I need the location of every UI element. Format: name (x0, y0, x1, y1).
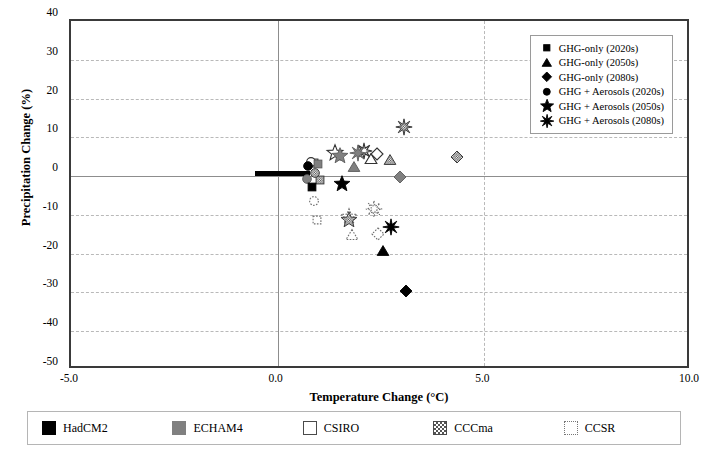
data-point (338, 208, 360, 230)
legend-item-label: GHG + Aerosols (2050s) (557, 101, 664, 112)
y-tick-label: 10 (2, 123, 58, 134)
legend-item-triangle: GHG-only (2050s) (537, 56, 664, 71)
legend-item-square: GHG-only (2020s) (537, 41, 664, 56)
legend-item-diamond: GHG-only (2080s) (537, 70, 664, 85)
x-tick-label: 5.0 (452, 372, 512, 384)
zero-axis-vertical (278, 21, 279, 366)
data-point (448, 148, 468, 168)
model-legend-item-hadcm2: HadCM2 (28, 421, 158, 436)
model-legend-item-echam4: ECHAM4 (158, 421, 288, 436)
swatch-solid-black-icon (42, 421, 56, 435)
model-legend-item-cccma: CCCma (419, 421, 549, 436)
y-tick-label: -30 (2, 278, 58, 289)
model-legend: HadCM2ECHAM4CSIROCCCmaCCSR (27, 411, 681, 445)
y-tick-label: -40 (2, 317, 58, 328)
gridline-horizontal (71, 292, 687, 293)
model-legend-label: ECHAM4 (193, 421, 242, 436)
model-legend-label: HadCM2 (63, 421, 108, 436)
swatch-dotted-outline-icon (564, 421, 578, 435)
legend-item-label: GHG-only (2050s) (557, 57, 639, 68)
data-point (396, 281, 416, 301)
model-legend-item-ccsr: CCSR (550, 421, 680, 436)
y-tick-label: 20 (2, 85, 58, 96)
model-legend-label: CSIRO (324, 421, 359, 436)
y-tick-label: 30 (2, 46, 58, 57)
series-legend: GHG-only (2020s)GHG-only (2050s)GHG-only… (530, 35, 673, 134)
zero-axis-horizontal (71, 176, 687, 177)
data-point (390, 168, 410, 188)
x-axis-title: Temperature Change (°C) (69, 390, 689, 405)
x-axis-tick-labels: -5.00.05.010.0 (69, 370, 689, 388)
data-point (373, 241, 393, 261)
gridline-vertical (484, 21, 485, 366)
y-axis-tick-labels: 403020100-10-20-30-40-50 (0, 19, 62, 368)
legend-item-star8: GHG + Aerosols (2080s) (537, 114, 664, 129)
model-legend-label: CCSR (585, 421, 616, 436)
model-legend-label: CCCma (454, 421, 493, 436)
legend-item-label: GHG-only (2020s) (557, 43, 639, 54)
data-point (331, 173, 353, 195)
scatter-chart: Precipitation Change (%) 403020100-10-20… (0, 0, 709, 392)
model-legend-item-csiro: CSIRO (289, 421, 419, 436)
plot-area: GHG-only (2020s)GHG-only (2050s)GHG-only… (69, 19, 689, 368)
swatch-solid-gray-icon (172, 421, 186, 435)
diamond-icon (537, 69, 557, 85)
y-tick-label: -10 (2, 201, 58, 212)
gridline-horizontal (71, 331, 687, 332)
legend-item-label: GHG-only (2080s) (557, 72, 639, 83)
data-point (347, 142, 369, 164)
data-point (298, 156, 318, 176)
data-point (380, 215, 402, 237)
data-point (302, 177, 322, 197)
star8-icon (537, 112, 557, 130)
y-tick-label: -50 (2, 356, 58, 367)
x-tick-label: 0.0 (246, 372, 306, 384)
x-tick-label: 10.0 (659, 372, 709, 384)
swatch-checkered-icon (433, 421, 447, 435)
y-tick-label: 0 (2, 162, 58, 173)
legend-item-label: GHG + Aerosols (2080s) (557, 115, 664, 126)
x-tick-label: -5.0 (39, 372, 99, 384)
gridline-horizontal (71, 137, 687, 138)
data-point (393, 116, 415, 138)
square-icon (537, 40, 557, 56)
data-point (307, 211, 327, 231)
y-tick-label: 40 (2, 7, 58, 18)
y-tick-label: -20 (2, 240, 58, 251)
chart-page: Precipitation Change (%) 403020100-10-20… (0, 0, 709, 455)
legend-item-label: GHG + Aerosols (2020s) (557, 86, 664, 97)
swatch-open-white-icon (303, 421, 317, 435)
triangle-icon (537, 55, 557, 71)
